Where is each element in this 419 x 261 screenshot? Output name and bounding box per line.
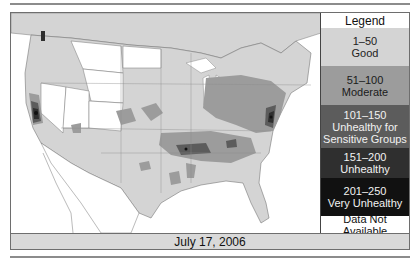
legend-range: 151–200 <box>344 151 387 163</box>
legend-range: 51–100 <box>347 74 384 86</box>
legend-item-no-data: Data Not Available <box>321 216 409 233</box>
legend-item-usg: 101–150 Unhealthy for Sensitive Groups <box>321 105 409 148</box>
us-aqi-map <box>11 13 321 233</box>
legend-label: Good <box>352 47 379 59</box>
legend-item-very-unhealthy: 201–250 Very Unhealthy <box>321 178 409 216</box>
legend: Legend 1–50 Good 51–100 Moderate 101–150… <box>321 13 409 233</box>
aqi-map-panel: Legend 1–50 Good 51–100 Moderate 101–150… <box>10 12 410 250</box>
legend-title: Legend <box>321 13 409 28</box>
legend-item-moderate: 51–100 Moderate <box>321 66 409 105</box>
legend-item-unhealthy: 151–200 Unhealthy <box>321 148 409 178</box>
legend-label: Moderate <box>342 86 388 98</box>
map-graphic <box>11 13 321 233</box>
legend-label: Unhealthy <box>340 163 390 175</box>
legend-item-good: 1–50 Good <box>321 28 409 66</box>
legend-range: 1–50 <box>353 35 377 47</box>
bottom-rule <box>10 256 410 258</box>
legend-label: Unhealthy for Sensitive Groups <box>321 121 409 145</box>
top-rule <box>10 3 410 5</box>
legend-range: 101–150 <box>344 109 387 121</box>
legend-range: 201–250 <box>344 185 387 197</box>
legend-label: Very Unhealthy <box>328 197 403 209</box>
map-date: July 17, 2006 <box>11 233 409 249</box>
